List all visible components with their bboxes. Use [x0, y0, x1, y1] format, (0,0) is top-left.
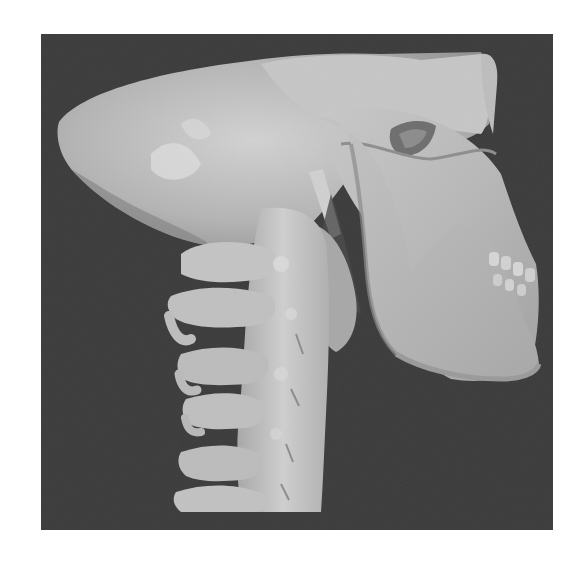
skull-spine-render	[41, 34, 553, 530]
ct-render-panel: 3D CT volume rendering, lateral view of …	[41, 34, 553, 530]
